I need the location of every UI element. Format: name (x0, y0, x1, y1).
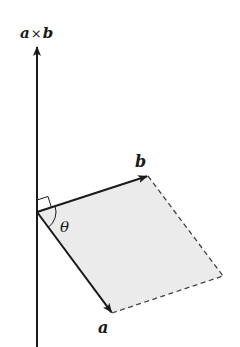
cross-product-label: a×b (20, 24, 53, 42)
right-angle-marker (37, 197, 52, 208)
vector-a-label: a (98, 318, 108, 337)
cross-product-diagram: a×b b a θ (0, 0, 240, 347)
angle-theta-label: θ (60, 218, 69, 236)
vector-b-label: b (135, 152, 146, 171)
parallelogram-area (37, 176, 223, 313)
